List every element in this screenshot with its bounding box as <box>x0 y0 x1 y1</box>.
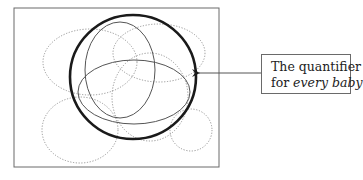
dotted-ellipse-middle <box>112 53 188 141</box>
label-line-2: for every baby <box>271 75 350 91</box>
dotted-ellipse-lower-right <box>170 109 212 151</box>
label-line-2-italic: every baby <box>293 75 362 90</box>
dotted-ellipse-upper-left <box>43 29 137 95</box>
dotted-ellipse-lower-left <box>42 97 118 163</box>
quantifier-circle <box>70 15 196 139</box>
label-line-2-prefix: for <box>271 75 293 90</box>
label-line-1: The quantifier <box>271 59 350 75</box>
quantifier-label-box: The quantifier for every baby <box>261 54 351 94</box>
